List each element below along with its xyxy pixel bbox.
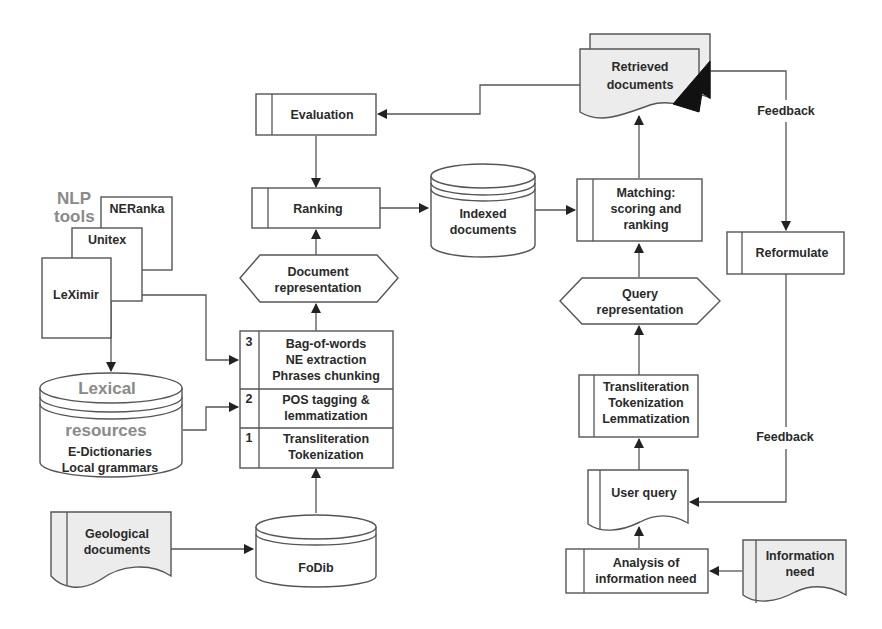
edge-retrieved-to-evaluation: [378, 85, 580, 114]
matching-line-1: Matching:: [616, 186, 675, 200]
fodib-database: FoDib: [256, 515, 376, 587]
ranking-label: Ranking: [293, 202, 342, 216]
ir-system-diagram: NLP tools NERanka Unitex LeXimir Lexical…: [0, 0, 882, 629]
reformulate-process: Reformulate: [727, 232, 844, 274]
lexical-title-1: Lexical: [78, 379, 136, 398]
queryrep-line-2: representation: [597, 303, 684, 317]
query-processing: Transliteration Tokenization Lemmatizati…: [579, 375, 698, 437]
layer-1-number: 1: [246, 431, 253, 445]
feedback-label-top: Feedback: [757, 104, 815, 118]
edge-tools-to-layer3: [141, 295, 238, 360]
nlp-tools-group: NLP tools NERanka Unitex LeXimir: [42, 189, 172, 338]
fodib-label: FoDib: [298, 561, 334, 575]
matching-line-3: ranking: [623, 218, 668, 232]
layer-3-line-3: Phrases chunking: [272, 369, 380, 383]
qproc-line-1: Transliteration: [603, 380, 689, 394]
retrieved-line-1: Retrieved: [612, 60, 669, 74]
indexed-line-1: Indexed: [459, 207, 506, 221]
docrep-line-1: Document: [287, 265, 349, 279]
geological-label-2: documents: [84, 543, 151, 557]
analysis-line-2: information need: [595, 572, 696, 586]
layer-2-line-2: lemmatization: [284, 409, 367, 423]
layer-3-line-2: NE extraction: [286, 353, 367, 367]
tool-unitex-label: Unitex: [88, 233, 126, 247]
evaluation-label: Evaluation: [290, 108, 353, 122]
queryrep-line-1: Query: [622, 287, 658, 301]
evaluation-process: Evaluation: [256, 94, 376, 135]
indexed-documents: Indexed documents: [431, 164, 535, 257]
infoneed-line-1: Information: [766, 549, 835, 563]
indexed-line-2: documents: [450, 223, 517, 237]
qproc-line-3: Lemmatization: [602, 412, 690, 426]
qproc-line-2: Tokenization: [608, 396, 683, 410]
retrieved-documents: Retrieved documents: [580, 34, 710, 118]
geological-documents: Geological documents: [51, 512, 171, 587]
document-representation: Document representation: [240, 255, 398, 302]
tool-leximir-label: LeXimir: [53, 288, 99, 302]
matching-line-2: scoring and: [611, 202, 682, 216]
query-representation: Query representation: [560, 278, 720, 324]
lexical-item-local-grammars: Local grammars: [62, 461, 159, 475]
geological-label-1: Geological: [85, 527, 149, 541]
matching-process: Matching: scoring and ranking: [577, 179, 702, 241]
processing-layers: 3 Bag-of-words NE extraction Phrases chu…: [240, 331, 393, 468]
layer-3-line-1: Bag-of-words: [286, 337, 367, 351]
edge-retrieved-to-reformulate: [710, 71, 786, 230]
user-query-label: User query: [611, 486, 676, 500]
tool-neranka-label: NERanka: [110, 202, 166, 216]
information-need: Information need: [743, 540, 846, 603]
edge-lexical-to-layer2: [183, 407, 238, 430]
layer-2-line-1: POS tagging &: [282, 393, 370, 407]
docrep-line-2: representation: [275, 281, 362, 295]
layer-3-number: 3: [246, 335, 253, 349]
layer-1-line-2: Tokenization: [288, 448, 363, 462]
layer-1-line-1: Transliteration: [283, 432, 369, 446]
analysis-line-1: Analysis of: [613, 556, 681, 570]
feedback-label-bottom: Feedback: [756, 430, 814, 444]
lexical-title-2: resources: [65, 421, 146, 440]
infoneed-line-2: need: [785, 565, 814, 579]
reformulate-label: Reformulate: [756, 246, 829, 260]
nlp-tools-label: NLP: [57, 189, 91, 208]
nlp-tools-label-2: tools: [54, 207, 95, 226]
lexical-item-edictionaries: E-Dictionaries: [68, 445, 152, 459]
ranking-process: Ranking: [252, 188, 380, 228]
lexical-resources: Lexical resources E-Dictionaries Local g…: [40, 373, 182, 477]
retrieved-line-2: documents: [607, 78, 674, 92]
analysis-process: Analysis of information need: [566, 549, 708, 593]
user-query: User query: [588, 470, 688, 530]
layer-2-number: 2: [246, 392, 253, 406]
